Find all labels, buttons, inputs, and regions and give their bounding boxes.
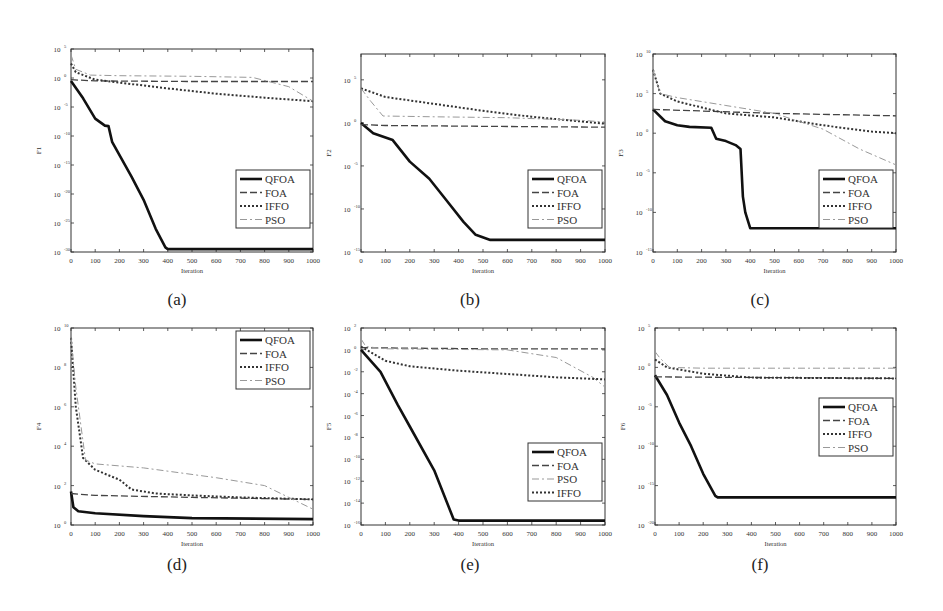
svg-text:5: 5 xyxy=(646,89,649,94)
x-tick-label: 1000 xyxy=(889,257,904,265)
x-tick-label: 300 xyxy=(138,257,149,265)
svg-text:0: 0 xyxy=(648,362,651,367)
x-tick-label: 700 xyxy=(527,530,538,538)
x-tick-label: 600 xyxy=(794,257,805,265)
y-tick-label: 10 xyxy=(54,443,62,451)
y-tick-label: 10 xyxy=(54,104,62,112)
svg-text:-14: -14 xyxy=(354,498,361,503)
x-tick-label: 400 xyxy=(746,530,757,538)
y-tick-label: 10 xyxy=(54,325,62,333)
x-tick-label: 800 xyxy=(551,530,562,538)
svg-text:5: 5 xyxy=(648,323,651,328)
svg-text:-16: -16 xyxy=(354,520,361,525)
x-tick-label: 200 xyxy=(696,257,707,265)
legend-label-pso: PSO xyxy=(848,214,868,226)
svg-text:-5: -5 xyxy=(354,161,358,166)
svg-text:-10: -10 xyxy=(64,131,71,136)
svg-text:10: 10 xyxy=(64,323,69,328)
svg-text:0: 0 xyxy=(64,73,67,78)
y-tick-label: 10 xyxy=(344,163,352,171)
y-tick-label: 10 xyxy=(636,209,644,217)
legend-label-foa: FOA xyxy=(265,348,287,360)
y-tick-label: 10 xyxy=(54,133,62,141)
y-tick-label: 10 xyxy=(344,369,352,377)
svg-text:-20: -20 xyxy=(648,520,655,525)
x-tick-label: 500 xyxy=(770,530,781,538)
svg-text:0: 0 xyxy=(354,118,357,123)
legend: QFOAFOAIFFOPSO xyxy=(236,170,310,228)
y-tick-label: 10 xyxy=(344,391,352,399)
svg-text:2: 2 xyxy=(354,323,356,328)
x-tick-label: 300 xyxy=(429,530,440,538)
svg-text:-15: -15 xyxy=(646,247,653,252)
panel-caption-e: (e) xyxy=(461,555,480,575)
legend-label-iffo: IFFO xyxy=(265,361,289,373)
x-tick-label: 1000 xyxy=(889,530,904,538)
x-axis-label: Iteration xyxy=(763,267,786,274)
svg-text:0: 0 xyxy=(646,128,649,133)
y-axis-label: F2 xyxy=(325,149,333,157)
x-axis-label: Iteration xyxy=(181,540,204,547)
y-axis-label: F5 xyxy=(325,422,333,430)
x-axis-label: Iteration xyxy=(472,540,495,547)
legend: QFOAFOAIFFOPSO xyxy=(819,170,893,228)
legend-label-iffo: IFFO xyxy=(848,428,872,440)
x-tick-label: 600 xyxy=(211,257,222,265)
x-tick-label: 800 xyxy=(259,257,270,265)
x-tick-label: 400 xyxy=(163,530,174,538)
svg-text:-5: -5 xyxy=(64,102,68,107)
x-tick-label: 700 xyxy=(235,257,246,265)
x-tick-label: 900 xyxy=(866,257,877,265)
y-axis-label: F3 xyxy=(617,149,625,157)
legend-label-pso: PSO xyxy=(265,375,285,387)
x-tick-label: 300 xyxy=(721,257,732,265)
legend-label-qfoa: QFOA xyxy=(557,446,587,458)
legend-label-foa: FOA xyxy=(848,415,870,427)
x-tick-label: 700 xyxy=(818,257,829,265)
svg-text:-25: -25 xyxy=(64,218,71,223)
x-tick-label: 400 xyxy=(453,530,464,538)
svg-text:5: 5 xyxy=(64,44,67,49)
svg-text:6: 6 xyxy=(64,402,67,407)
legend-label-qfoa: QFOA xyxy=(848,173,878,185)
y-tick-label: 10 xyxy=(54,75,62,83)
legend-label-pso: PSO xyxy=(557,214,577,226)
x-tick-label: 300 xyxy=(429,257,440,265)
x-tick-label: 800 xyxy=(259,530,270,538)
svg-text:-20: -20 xyxy=(64,189,71,194)
x-tick-label: 900 xyxy=(867,530,878,538)
x-tick-label: 100 xyxy=(674,530,685,538)
x-tick-label: 0 xyxy=(653,530,657,538)
x-tick-label: 900 xyxy=(284,257,295,265)
svg-text:-12: -12 xyxy=(354,476,360,481)
x-axis-label: Iteration xyxy=(181,267,204,274)
legend-label-iffo: IFFO xyxy=(265,200,289,212)
legend-label-foa: FOA xyxy=(557,187,579,199)
x-tick-label: 1000 xyxy=(598,257,613,265)
y-tick-label: 10 xyxy=(344,478,352,486)
x-tick-label: 1000 xyxy=(306,257,321,265)
panel-caption-b: (b) xyxy=(460,290,480,310)
x-tick-label: 0 xyxy=(651,257,655,265)
y-tick-label: 10 xyxy=(54,220,62,228)
y-tick-label: 10 xyxy=(638,522,646,530)
svg-text:-10: -10 xyxy=(648,441,655,446)
y-tick-label: 10 xyxy=(638,325,646,333)
x-tick-label: 200 xyxy=(114,257,125,265)
panel-caption-d: (d) xyxy=(167,555,187,575)
svg-text:-10: -10 xyxy=(646,207,653,212)
svg-text:-30: -30 xyxy=(64,247,71,252)
x-tick-label: 100 xyxy=(672,257,683,265)
y-tick-label: 10 xyxy=(344,434,352,442)
y-tick-label: 10 xyxy=(344,500,352,508)
y-tick-label: 10 xyxy=(54,483,62,491)
x-axis-label: Iteration xyxy=(472,267,495,274)
legend-label-qfoa: QFOA xyxy=(848,401,878,413)
legend-label-pso: PSO xyxy=(848,442,868,454)
legend-label-iffo: IFFO xyxy=(848,200,872,212)
x-tick-label: 400 xyxy=(745,257,756,265)
y-tick-label: 10 xyxy=(54,249,62,257)
svg-text:2: 2 xyxy=(64,481,66,486)
svg-text:-10: -10 xyxy=(354,454,361,459)
legend-label-qfoa: QFOA xyxy=(265,334,295,346)
